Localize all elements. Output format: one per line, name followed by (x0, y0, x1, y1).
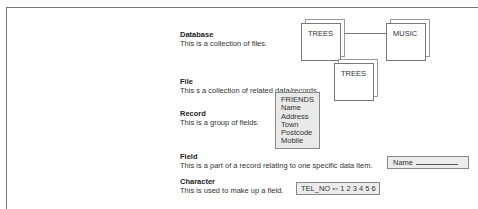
term-description: This is used to make up a field. (180, 186, 283, 195)
card-label: TREES (308, 29, 333, 38)
term-description: This is a collection of files. (180, 39, 267, 48)
field-example-box: Name (387, 156, 469, 169)
term-title: File (180, 77, 319, 86)
term-database: Database This is a collection of files. (180, 30, 267, 48)
frame-top-border (6, 7, 478, 8)
database-file-card-music: MUSIC (386, 23, 426, 61)
frame-left-border (6, 7, 7, 209)
term-field: Field This is a part of a record relatin… (180, 152, 373, 170)
character-example-box: TEL_NO => 1 2 3 4 5 6 (296, 182, 380, 195)
term-character: Character This is used to make up a fiel… (180, 177, 283, 195)
term-title: Database (180, 30, 267, 39)
record-field: Mobile (281, 137, 319, 145)
term-record: Record This is a group of fields. (180, 109, 259, 127)
card-label: MUSIC (393, 29, 417, 38)
arrow-icon: => (332, 186, 338, 192)
term-title: Character (180, 177, 283, 186)
character-value: 1 2 3 4 5 6 (340, 184, 375, 193)
database-file-card-trees: TREES (301, 23, 341, 61)
field-blank-line (416, 157, 458, 165)
term-description: This is a part of a record relating to o… (180, 161, 373, 170)
term-description: This is a group of fields. (180, 118, 259, 127)
record-example-box: FRIENDS Name Address Town Postcode Mobil… (275, 92, 320, 149)
character-field-name: TEL_NO (301, 184, 330, 193)
term-title: Record (180, 109, 259, 118)
field-label: Name (393, 158, 413, 167)
file-card-trees: TREES (334, 63, 374, 101)
card-label: TREES (341, 69, 366, 78)
term-title: Field (180, 152, 373, 161)
